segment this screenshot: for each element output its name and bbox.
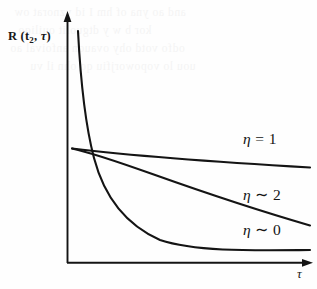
eta-relation: ∼ 2: [251, 186, 281, 203]
eta-symbol: η: [243, 130, 251, 147]
x-axis-label: τ: [297, 266, 302, 282]
eta-relation: = 1: [251, 130, 277, 147]
x-axis-arrowhead: [302, 259, 313, 267]
y-axis-label-suffix: ): [46, 29, 50, 43]
eta-relation: ∼ 0: [251, 221, 281, 238]
curve-label-eta-approx-2: η ∼ 2: [243, 186, 281, 204]
y-axis-label-prefix: R (t: [8, 29, 29, 43]
curve-label-eta-approx-0: η ∼ 0: [243, 221, 281, 239]
y-axis-arrowhead: [64, 11, 72, 22]
curve-label-eta-equals-1: η = 1: [243, 130, 277, 148]
eta-symbol: η: [243, 186, 251, 203]
y-axis-label: R (t2, τ): [8, 29, 51, 45]
eta-symbol: η: [243, 221, 251, 238]
figure-container: and ao yna of hm I id yznorat ow kor b w…: [0, 0, 317, 289]
y-axis-label-separator: ,: [34, 29, 41, 43]
